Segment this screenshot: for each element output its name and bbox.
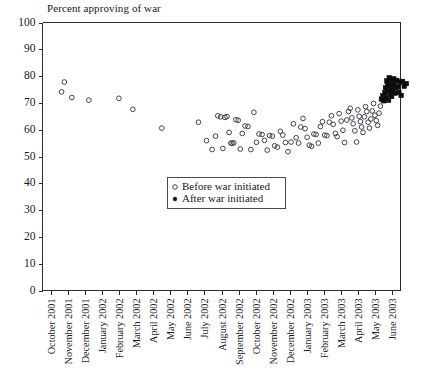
x-axis-ticks	[52, 291, 393, 295]
data-point-before	[303, 126, 308, 131]
data-point-before	[294, 135, 299, 140]
scatter-chart: Percent approving of war 010203040506070…	[0, 0, 430, 381]
data-point-before	[331, 122, 336, 127]
x-tick-label: May 2002	[165, 299, 176, 341]
data-point-before	[246, 124, 251, 129]
data-point-before	[370, 109, 375, 114]
x-tick-label: May 2003	[370, 299, 381, 341]
data-point-before	[159, 126, 164, 131]
y-tick-label: 20	[24, 230, 36, 242]
data-point-before	[356, 108, 361, 113]
data-point-before	[213, 134, 218, 139]
data-point-before	[329, 113, 334, 118]
y-tick-label: 30	[24, 203, 36, 215]
data-point-before	[286, 149, 291, 154]
chart-title: Percent approving of war	[47, 2, 161, 14]
data-point-after	[404, 81, 409, 86]
data-point-before	[62, 80, 67, 85]
data-point-before	[227, 130, 232, 135]
data-point-before	[371, 101, 376, 106]
data-point-before	[305, 135, 310, 140]
x-tick-label: October 2002	[251, 299, 262, 355]
legend-label-after: After war initiated	[182, 192, 264, 204]
x-tick-label: March 2002	[131, 299, 142, 349]
data-point-before	[367, 126, 372, 131]
data-point-before	[254, 140, 259, 145]
x-tick-label: November 2001	[63, 299, 74, 365]
data-point-before	[342, 140, 347, 145]
data-point-before	[363, 104, 368, 109]
data-point-before	[289, 140, 294, 145]
y-axis-ticks	[39, 24, 43, 292]
x-tick-label: October 2001	[46, 299, 57, 355]
chart-canvas: 0102030405060708090100 October 2001Novem…	[0, 0, 430, 381]
data-point-before	[87, 98, 92, 103]
x-tick-label: August 2002	[217, 299, 228, 351]
legend-label-before: Before war initiated	[182, 180, 270, 192]
data-point-before	[361, 130, 366, 135]
x-tick-label: December 2001	[80, 299, 91, 364]
data-point-before	[196, 120, 201, 125]
data-point-after	[395, 85, 400, 90]
data-point-before	[337, 111, 342, 116]
y-tick-label: 50	[24, 150, 36, 162]
data-point-before	[375, 123, 380, 128]
data-point-before	[240, 131, 245, 136]
y-tick-label: 40	[24, 176, 36, 188]
x-tick-label: April 2003	[353, 299, 364, 343]
x-tick-label: November 2002	[268, 299, 279, 365]
data-point-before	[117, 96, 122, 101]
data-point-before	[351, 121, 356, 126]
data-point-before	[377, 111, 382, 116]
x-tick-label: January 2003	[302, 299, 313, 354]
y-tick-label: 80	[24, 69, 36, 81]
data-point-before	[260, 132, 265, 137]
data-point-before	[248, 147, 253, 152]
x-tick-label: December 2002	[285, 299, 296, 364]
series-before-war-initiated	[59, 80, 382, 154]
data-point-before	[357, 114, 362, 119]
data-point-before	[344, 118, 349, 123]
x-tick-label: June 2003	[387, 299, 398, 341]
y-tick-label: 70	[24, 96, 36, 108]
data-point-before	[301, 116, 306, 121]
data-point-before	[204, 138, 209, 143]
data-point-before	[221, 146, 226, 151]
data-point-before	[316, 141, 321, 146]
x-tick-label: February 2002	[114, 299, 125, 359]
y-tick-label: 0	[30, 284, 36, 296]
x-axis-labels: October 2001November 2001December 2001Ja…	[46, 299, 398, 366]
data-point-before	[318, 124, 323, 129]
legend-marker-filled-dot-icon	[173, 197, 177, 201]
data-point-before	[265, 148, 270, 153]
data-point-before	[350, 116, 355, 121]
x-tick-label: February 2003	[319, 299, 330, 359]
y-tick-label: 10	[24, 257, 36, 269]
data-point-before	[362, 114, 367, 119]
data-point-before	[262, 138, 267, 143]
y-tick-label: 90	[24, 42, 36, 54]
data-point-before	[215, 113, 220, 118]
data-point-before	[341, 128, 346, 133]
data-point-before	[291, 121, 296, 126]
data-point-before	[359, 125, 364, 130]
y-tick-label: 60	[24, 123, 36, 135]
x-tick-label: June 2002	[182, 299, 193, 341]
x-tick-label: July 2002	[199, 299, 210, 339]
chart-legend: Before war initiated After war initiated	[168, 178, 286, 209]
data-point-before	[210, 147, 215, 152]
data-point-before	[281, 133, 286, 138]
y-tick-label: 100	[18, 16, 36, 28]
x-tick-label: January 2002	[97, 299, 108, 354]
data-point-before	[59, 90, 64, 95]
data-point-before	[339, 119, 344, 124]
x-tick-label: April 2002	[148, 299, 159, 343]
data-point-before	[352, 128, 357, 133]
data-point-before	[364, 109, 369, 114]
data-point-after	[399, 93, 404, 98]
data-point-before	[283, 140, 288, 145]
plot-frame	[43, 23, 401, 291]
data-point-before	[296, 141, 301, 146]
series-after-war-initiated	[379, 75, 408, 103]
data-point-before	[354, 140, 359, 145]
